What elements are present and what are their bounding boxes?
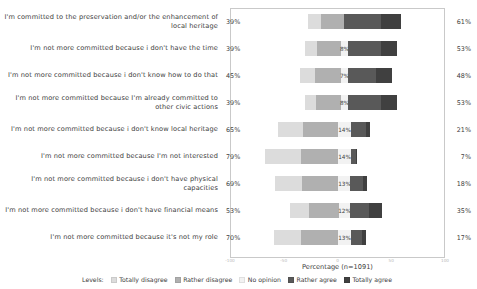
bar-segment-rather-agree[interactable] [344,14,380,29]
category-label: I'm not more committed because I'm not i… [0,152,222,160]
bar-segment-totally-agree[interactable] [356,149,358,164]
legend-item[interactable]: Rather agree [288,276,337,283]
legend-label: No opinion [248,276,281,283]
bar-segment-totally-agree[interactable] [363,176,368,191]
bar-row: I'm not more committed because i don't h… [0,197,477,224]
bar-segment-no-opinion[interactable]: 14% [338,122,351,137]
bar-segment-totally-agree[interactable] [369,203,382,218]
stacked-bar[interactable]: 13% [275,176,367,191]
category-label: I'm not more committed because i don't h… [0,175,222,192]
agree-total-label: 35% [437,207,477,215]
bar-segment-totally-disagree[interactable] [305,41,317,56]
disagree-total-label: 79% [222,153,252,161]
legend-swatch-rather-disagree-icon [175,277,181,283]
bar-segment-totally-disagree[interactable] [290,203,309,218]
legend-label: Totally agree [352,276,392,283]
legend-label: Rather disagree [183,276,232,283]
agree-total-label: 53% [437,45,477,53]
legend-label: Totally disagree [119,276,167,283]
bar-segment-rather-disagree[interactable] [317,41,341,56]
bar-segment-rather-agree[interactable] [348,68,377,83]
bar-segment-no-opinion[interactable]: 14% [338,149,351,164]
bar-track: 12% [252,197,437,224]
category-label: I'm not more committed because i don't h… [0,206,222,214]
bar-segment-rather-agree[interactable] [350,203,369,218]
bar-segment-totally-disagree[interactable] [274,230,302,245]
bar-segment-rather-disagree[interactable] [309,203,339,218]
bar-segment-rather-disagree[interactable] [301,230,338,245]
bar-segment-rather-disagree[interactable] [301,149,338,164]
legend-item[interactable]: No opinion [239,276,281,283]
stacked-bar[interactable]: 13% [274,230,366,245]
bar-segment-totally-disagree[interactable] [278,122,303,137]
stacked-bar[interactable] [308,14,400,29]
bar-segment-totally-disagree[interactable] [300,68,316,83]
bar-segment-totally-disagree[interactable] [265,149,301,164]
bar-segment-rather-agree[interactable] [351,122,366,137]
bar-track: 8% [252,35,437,62]
legend-item[interactable]: Totally agree [344,276,392,283]
no-opinion-label: 12% [338,208,351,214]
stacked-bar[interactable]: 8% [305,95,397,110]
legend-swatch-totally-disagree-icon [111,277,117,283]
bar-segment-totally-agree[interactable] [381,95,398,110]
bar-segment-totally-agree[interactable] [381,41,397,56]
bar-segment-rather-agree[interactable] [348,95,380,110]
disagree-total-label: 53% [222,207,252,215]
bar-segment-totally-agree[interactable] [366,122,371,137]
agree-total-label: 17% [437,234,477,242]
stacked-bar[interactable]: 14% [265,149,357,164]
legend-item[interactable]: Totally disagree [111,276,168,283]
disagree-total-label: 45% [222,72,252,80]
bar-segment-totally-agree[interactable] [362,230,367,245]
x-axis-label: Percentage (n=1091) [230,263,445,271]
bar-segment-totally-disagree[interactable] [275,176,303,191]
legend-label: Rather agree [297,276,337,283]
bar-segment-totally-disagree[interactable] [308,14,321,29]
category-label: I'm not more committed because it's not … [0,233,222,241]
bar-segment-totally-agree[interactable] [381,14,401,29]
category-label: I'm committed to the preservation and/or… [0,13,222,30]
likert-chart: I'm committed to the preservation and/or… [0,0,477,289]
category-label: I'm not more committed because i don't k… [0,125,222,133]
bar-segment-no-opinion[interactable]: 8% [341,41,348,56]
bar-segment-no-opinion[interactable]: 12% [339,203,350,218]
legend-swatch-no-opinion-icon [239,277,245,283]
bar-row: I'm not more committed because it's not … [0,224,477,251]
bar-segment-no-opinion[interactable]: 13% [338,176,350,191]
bar-segment-no-opinion[interactable]: 8% [341,95,348,110]
bar-segment-rather-agree[interactable] [350,176,362,191]
bar-segment-totally-agree[interactable] [376,68,392,83]
bar-segment-rather-agree[interactable] [348,41,381,56]
stacked-bar[interactable]: 14% [278,122,370,137]
bar-segment-rather-agree[interactable] [351,230,362,245]
legend-item[interactable]: Rather disagree [175,276,233,283]
bar-segment-no-opinion[interactable]: 13% [338,230,350,245]
disagree-total-label: 39% [222,99,252,107]
no-opinion-label: 14% [338,127,351,133]
bar-track: 14% [252,116,437,143]
disagree-total-label: 69% [222,180,252,188]
chart-legend: Levels: Totally disagreeRather disagreeN… [0,276,477,283]
stacked-bar[interactable]: 7% [300,68,392,83]
bar-segment-rather-disagree[interactable] [321,14,344,29]
stacked-bar[interactable]: 8% [305,41,397,56]
bar-segment-rather-disagree[interactable] [302,176,338,191]
disagree-total-label: 39% [222,45,252,53]
bar-row: I'm committed to the preservation and/or… [0,8,477,35]
stacked-bar[interactable]: 12% [290,203,382,218]
no-opinion-label: 13% [338,181,351,187]
bar-segment-totally-disagree[interactable] [305,95,316,110]
bar-segment-rather-disagree[interactable] [315,68,341,83]
legend-swatch-totally-agree-icon [344,277,350,283]
bar-segment-rather-disagree[interactable] [303,122,338,137]
bar-row: I'm not more committed because i don't k… [0,116,477,143]
no-opinion-label: 13% [338,235,351,241]
bar-track: 13% [252,170,437,197]
agree-total-label: 21% [437,126,477,134]
bar-track: 7% [252,62,437,89]
bar-track [252,8,437,35]
legend-title: Levels: [82,276,104,283]
bar-track: 8% [252,89,437,116]
bar-segment-rather-disagree[interactable] [316,95,341,110]
